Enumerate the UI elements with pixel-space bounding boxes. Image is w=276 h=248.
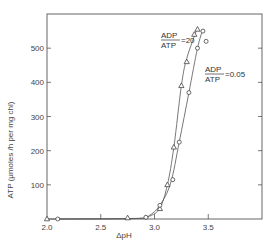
y-tick-label: 300 (31, 113, 45, 122)
y-tick-label: 200 (31, 147, 45, 156)
y-tick-label: 100 (31, 181, 45, 190)
triangle-marker (44, 216, 49, 221)
triangle-marker (179, 83, 184, 88)
circle-marker (204, 39, 208, 43)
triangle-marker (184, 59, 189, 64)
fitted-curves (47, 28, 203, 219)
x-tick-label: 3.5 (203, 223, 215, 232)
annotations: ADPATP=20ADPATP=0.05 (161, 31, 246, 84)
plot-frame (47, 14, 262, 219)
y-tick-label: 400 (31, 78, 45, 87)
circle-marker (177, 140, 181, 144)
annotation-denominator: ATP (205, 75, 220, 84)
circle-marker (144, 215, 148, 219)
circle-marker (201, 29, 205, 33)
chart: 100200300400500 2.02.53.03.5 ADPATP=20AD… (0, 0, 276, 248)
circle-marker (171, 178, 175, 182)
circle-marker (56, 217, 60, 221)
annotation-numerator: ADP (205, 65, 221, 74)
triangle-marker (125, 215, 130, 220)
annotation-value: =20 (181, 36, 195, 45)
data-markers (44, 27, 208, 221)
x-tick-label: 3.0 (149, 223, 161, 232)
circle-marker (196, 46, 200, 50)
y-axis-ticks: 100200300400500 (31, 44, 262, 190)
annotation-numerator: ADP (161, 31, 177, 40)
y-tick-label: 500 (31, 44, 45, 53)
triangle-marker (171, 144, 176, 149)
circle-marker (187, 91, 191, 95)
x-axis-label: ΔpH (116, 231, 132, 240)
triangle-marker (165, 182, 170, 187)
y-axis-label: ATP (μmoles /h per mg chl) (6, 101, 15, 198)
x-tick-label: 2.5 (95, 223, 107, 232)
annotation-denominator: ATP (161, 41, 176, 50)
triangle-marker (195, 27, 200, 32)
circle-marker (158, 203, 162, 207)
annotation-value: =0.05 (225, 70, 246, 79)
x-tick-label: 2.0 (41, 223, 53, 232)
